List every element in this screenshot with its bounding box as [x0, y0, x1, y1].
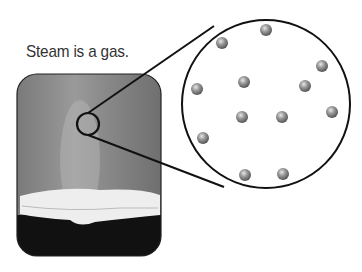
gas-particle — [277, 168, 289, 180]
gas-particle — [216, 37, 228, 49]
gas-particle — [326, 106, 338, 118]
gas-particle — [191, 83, 203, 95]
gas-particle — [239, 169, 251, 181]
gas-particle — [316, 60, 328, 72]
diagram — [0, 0, 362, 272]
gas-particle — [197, 132, 209, 144]
gas-particle — [299, 80, 311, 92]
steam-photo — [17, 74, 161, 260]
gas-particle — [276, 111, 288, 123]
gas-particle — [238, 76, 250, 88]
gas-particle — [236, 111, 248, 123]
gas-particle — [260, 24, 272, 36]
large-magnifier-circle — [182, 20, 350, 188]
